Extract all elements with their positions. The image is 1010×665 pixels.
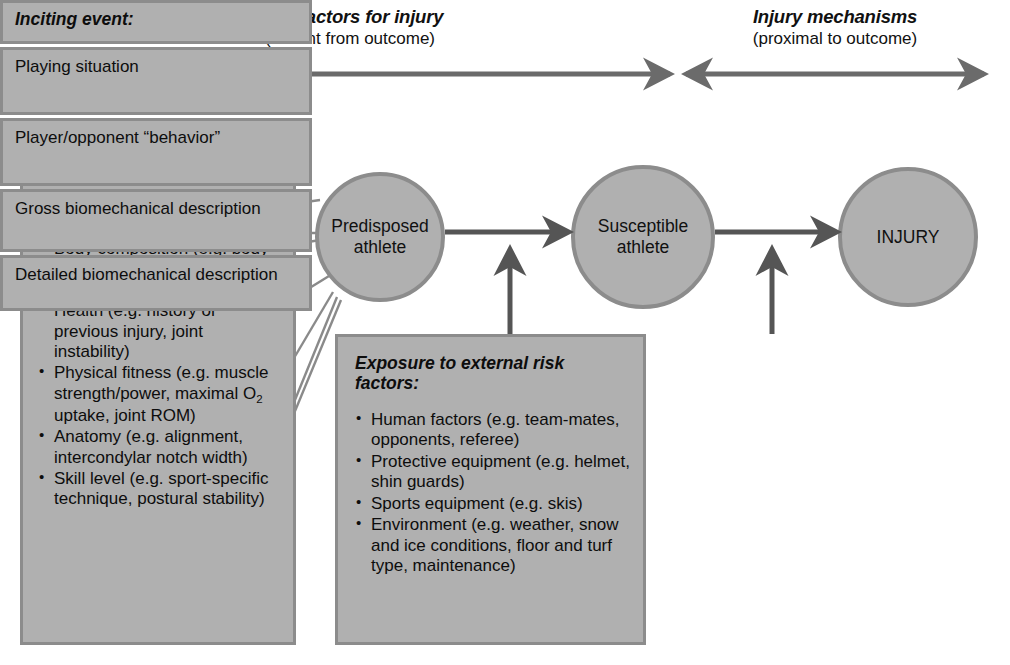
node-predisposed-athlete-label: Predisposed athlete <box>331 216 428 258</box>
list-item: Human factors (e.g. team-mates, opponent… <box>354 410 633 451</box>
list-item: Anatomy (e.g. alignment, intercondylar n… <box>37 427 283 468</box>
inciting-event-row-text: Player/opponent “behavior” <box>15 128 220 147</box>
node-susceptible-athlete-line2: athlete <box>617 237 670 257</box>
inciting-event-row-text: Detailed biomechanical description <box>15 265 278 284</box>
node-injury-line1: INJURY <box>877 227 940 247</box>
node-predisposed-athlete-line1: Predisposed <box>331 216 428 236</box>
inciting-event-row-text: Playing situation <box>15 57 139 76</box>
list-item: Sports equipment (e.g. skis) <box>354 494 633 514</box>
node-susceptible-athlete-line1: Susceptible <box>598 216 688 236</box>
header-injury-mechanisms-title: Injury mechanisms <box>680 6 990 28</box>
list-item: Physical fitness (e.g. muscle strength/p… <box>37 363 283 427</box>
diagram-canvas: Risk factors for injury (distant from ou… <box>0 0 1010 665</box>
inciting-event-row-text: Gross biomechanical description <box>15 199 261 218</box>
header-injury-mechanisms: Injury mechanisms (proximal to outcome) <box>680 6 990 49</box>
list-item: Skill level (e.g. sport-specific techniq… <box>37 469 283 510</box>
panel-inciting-event-title: Inciting event: <box>15 9 299 29</box>
list-item: Protective equipment (e.g. helmet, shin … <box>354 452 633 493</box>
node-predisposed-athlete-line2: athlete <box>354 237 407 257</box>
panel-exposure-external-risk-factors: Exposure to external risk factors: Human… <box>335 334 646 645</box>
panel-inciting-event-header: Inciting event: <box>0 0 312 44</box>
node-injury-label: INJURY <box>877 227 940 248</box>
panel-inciting-event: Inciting event: Playing situation Player… <box>0 0 312 311</box>
panel-exposure-title: Exposure to external risk factors: <box>355 353 633 394</box>
inciting-event-row-detailed-biomechanical-description: Detailed biomechanical description <box>0 255 312 311</box>
node-susceptible-athlete-label: Susceptible athlete <box>598 216 688 258</box>
inciting-event-row-gross-biomechanical-description: Gross biomechanical description <box>0 189 312 252</box>
header-injury-mechanisms-subtitle: (proximal to outcome) <box>680 29 990 49</box>
inciting-event-row-playing-situation: Playing situation <box>0 47 312 115</box>
inciting-event-row-player-opponent-behavior: Player/opponent “behavior” <box>0 118 312 186</box>
exposure-risk-factors-list: Human factors (e.g. team-mates, opponent… <box>354 410 633 577</box>
list-item: Environment (e.g. weather, snow and ice … <box>354 515 633 576</box>
